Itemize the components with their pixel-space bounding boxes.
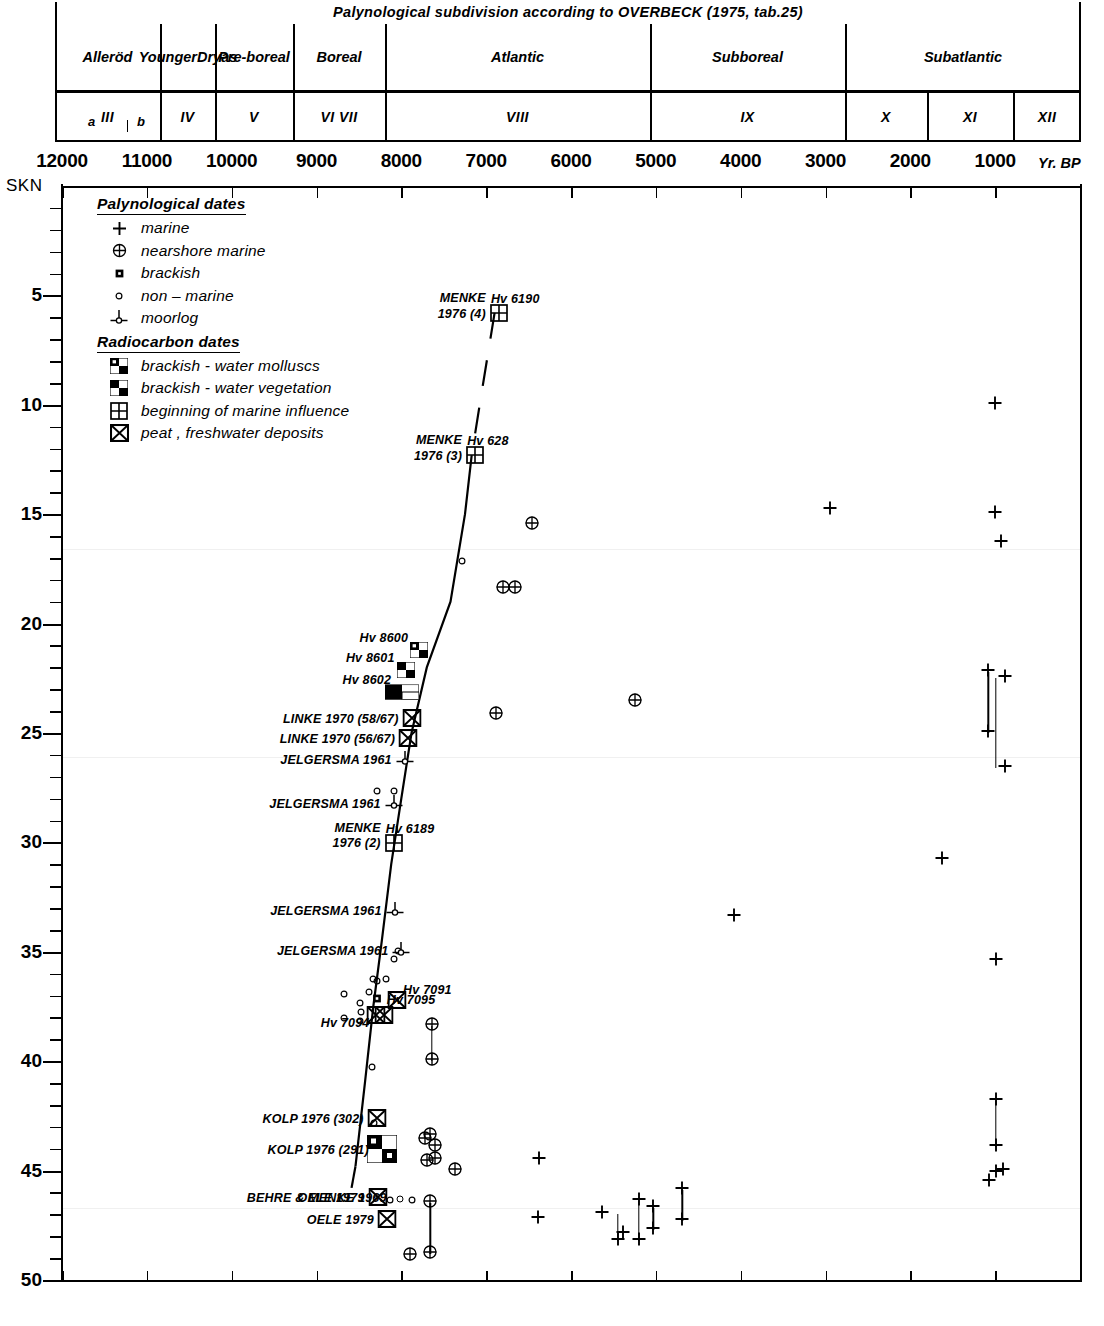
legend-symbol-wrap	[97, 309, 141, 327]
point-label-6: LINKE 1970 (56/67)	[280, 732, 395, 748]
zone-cell-5: Subboreal	[650, 24, 845, 90]
moorlog-span-icon	[395, 1190, 405, 1208]
legend-item-palyno-4: moorlog	[97, 307, 437, 330]
circle-plus-icon	[627, 693, 642, 712]
plus-icon	[726, 907, 741, 926]
plus-icon	[982, 1172, 997, 1191]
moorlog-icon	[391, 941, 411, 963]
legend-item-radio-2: beginning of marine influence	[97, 400, 437, 423]
zone-number-cell-5: IX	[650, 93, 845, 140]
circle-plus-icon	[112, 243, 127, 258]
legend-item-radio-3: peat , freshwater deposits	[97, 422, 437, 445]
legend-item-radio-1: brackish - water vegetation	[97, 377, 437, 400]
moorlog-icon	[385, 901, 405, 923]
zone-number-cell-3: VI VII	[293, 93, 385, 140]
point-code-1: Hv 628	[467, 434, 509, 450]
point-code-14: Hv 7094	[321, 1017, 370, 1033]
zone-number-divider-4	[385, 93, 387, 140]
crossed-square-icon	[367, 1109, 386, 1131]
circle-plus-icon	[489, 706, 504, 725]
point-label-17: KOLP 1976 (291)	[268, 1143, 369, 1159]
point-label-10: JELGERSMA 1961	[270, 905, 381, 921]
plus-icon	[531, 1150, 546, 1169]
zone-divider-6	[845, 24, 847, 90]
legend-item-palyno-0: marine	[97, 217, 437, 240]
point-label-11: JELGERSMA 1961	[277, 944, 388, 960]
zone-number-cell-6: X	[845, 93, 927, 140]
legend-symbol-wrap	[97, 424, 141, 442]
plus-icon	[981, 662, 996, 681]
small-circle-icon	[368, 1057, 376, 1075]
plus-icon	[530, 1209, 545, 1228]
point-code-2: Hv 8600	[359, 631, 408, 647]
zone-divider-4	[385, 24, 387, 90]
point-code-4: Hv 8602	[343, 673, 392, 689]
legend-label: beginning of marine influence	[141, 402, 349, 420]
zone-cell-3: Boreal	[293, 24, 385, 90]
zone-number-cell-4: VIII	[385, 93, 650, 140]
point-label-16: KOLP 1976 (302)	[263, 1112, 364, 1128]
zone-number-cell-1: IV	[160, 93, 215, 140]
zone-number-cell-7: XI	[927, 93, 1013, 140]
plus-icon	[594, 1205, 609, 1224]
point-code-9: Hv 6189	[386, 822, 435, 838]
point-code-3: Hv 8601	[346, 651, 395, 667]
legend-symbol-wrap	[97, 292, 141, 300]
zone-cell-2: Pre-boreal	[215, 24, 293, 90]
legend-group-radiocarbon: brackish - water molluscsbrackish - wate…	[97, 355, 437, 445]
checker-tl-br-icon	[410, 642, 428, 662]
plus-icon	[981, 724, 996, 743]
checker-tl-br-icon	[110, 358, 128, 374]
plus-icon	[989, 1137, 1004, 1156]
crossed-square-icon	[402, 709, 421, 731]
plus-icon	[989, 951, 1004, 970]
plus-icon	[934, 850, 949, 869]
crossed-square-icon	[377, 1210, 396, 1232]
point-label-7: JELGERSMA 1961	[280, 754, 391, 770]
zone-number-divider-3	[293, 93, 295, 140]
plus-icon	[822, 500, 837, 519]
crossed-square-icon	[399, 729, 418, 751]
crossed-square-icon	[110, 424, 129, 442]
plus-icon	[988, 505, 1003, 524]
point-label-8: JELGERSMA 1961	[269, 797, 380, 813]
point-code-0: Hv 6190	[491, 292, 540, 308]
plus-icon	[998, 759, 1013, 778]
zone-number-divider-5	[650, 93, 652, 140]
zone-divider-5	[650, 24, 652, 90]
moorlog-icon	[395, 750, 415, 772]
plus-icon	[615, 1225, 630, 1244]
zone-sub-a: a	[88, 114, 95, 129]
small-filled-square-icon	[372, 989, 381, 1007]
zone-number-divider-7	[927, 93, 929, 140]
small-circle-icon	[340, 984, 348, 1002]
zone-sub-b: b	[137, 114, 145, 129]
legend-symbol-wrap	[97, 402, 141, 420]
circle-plus-icon	[402, 1246, 417, 1265]
checker-tr-bl-icon	[397, 662, 415, 682]
small-circle-icon	[408, 1190, 416, 1208]
circle-plus-icon	[424, 1052, 439, 1071]
plus-icon	[631, 1192, 646, 1211]
legend-label: brackish - water molluscs	[141, 357, 320, 375]
point-label-5: LINKE 1970 (58/67)	[283, 712, 398, 728]
point-label-0: MENKE1976 (4)	[438, 291, 486, 322]
zone-number-cell-2: V	[215, 93, 293, 140]
legend-group-palynological: marinenearshore marinebrackishnon – mari…	[97, 217, 437, 330]
legend-symbol-wrap	[97, 269, 141, 278]
stratigraphy-table: Palynological subdivision according to O…	[55, 2, 1081, 142]
small-circle-icon	[386, 1190, 394, 1208]
plus-icon	[631, 1231, 646, 1250]
zone-number-divider-1	[160, 93, 162, 140]
zone-cell-1: YoungerDryas	[160, 24, 215, 90]
legend-label: peat , freshwater deposits	[141, 424, 324, 442]
legend-label: nearshore marine	[141, 242, 266, 260]
point-code-13: Hv 7095	[387, 993, 436, 1009]
small-circle-icon	[382, 969, 390, 987]
small-circle-icon	[115, 292, 123, 300]
legend-item-palyno-2: brackish	[97, 262, 437, 285]
circle-plus-icon	[418, 1130, 433, 1149]
grid-square-icon	[110, 402, 128, 420]
legend-item-palyno-3: non – marine	[97, 285, 437, 308]
table-title: Palynological subdivision according to O…	[55, 4, 1081, 20]
